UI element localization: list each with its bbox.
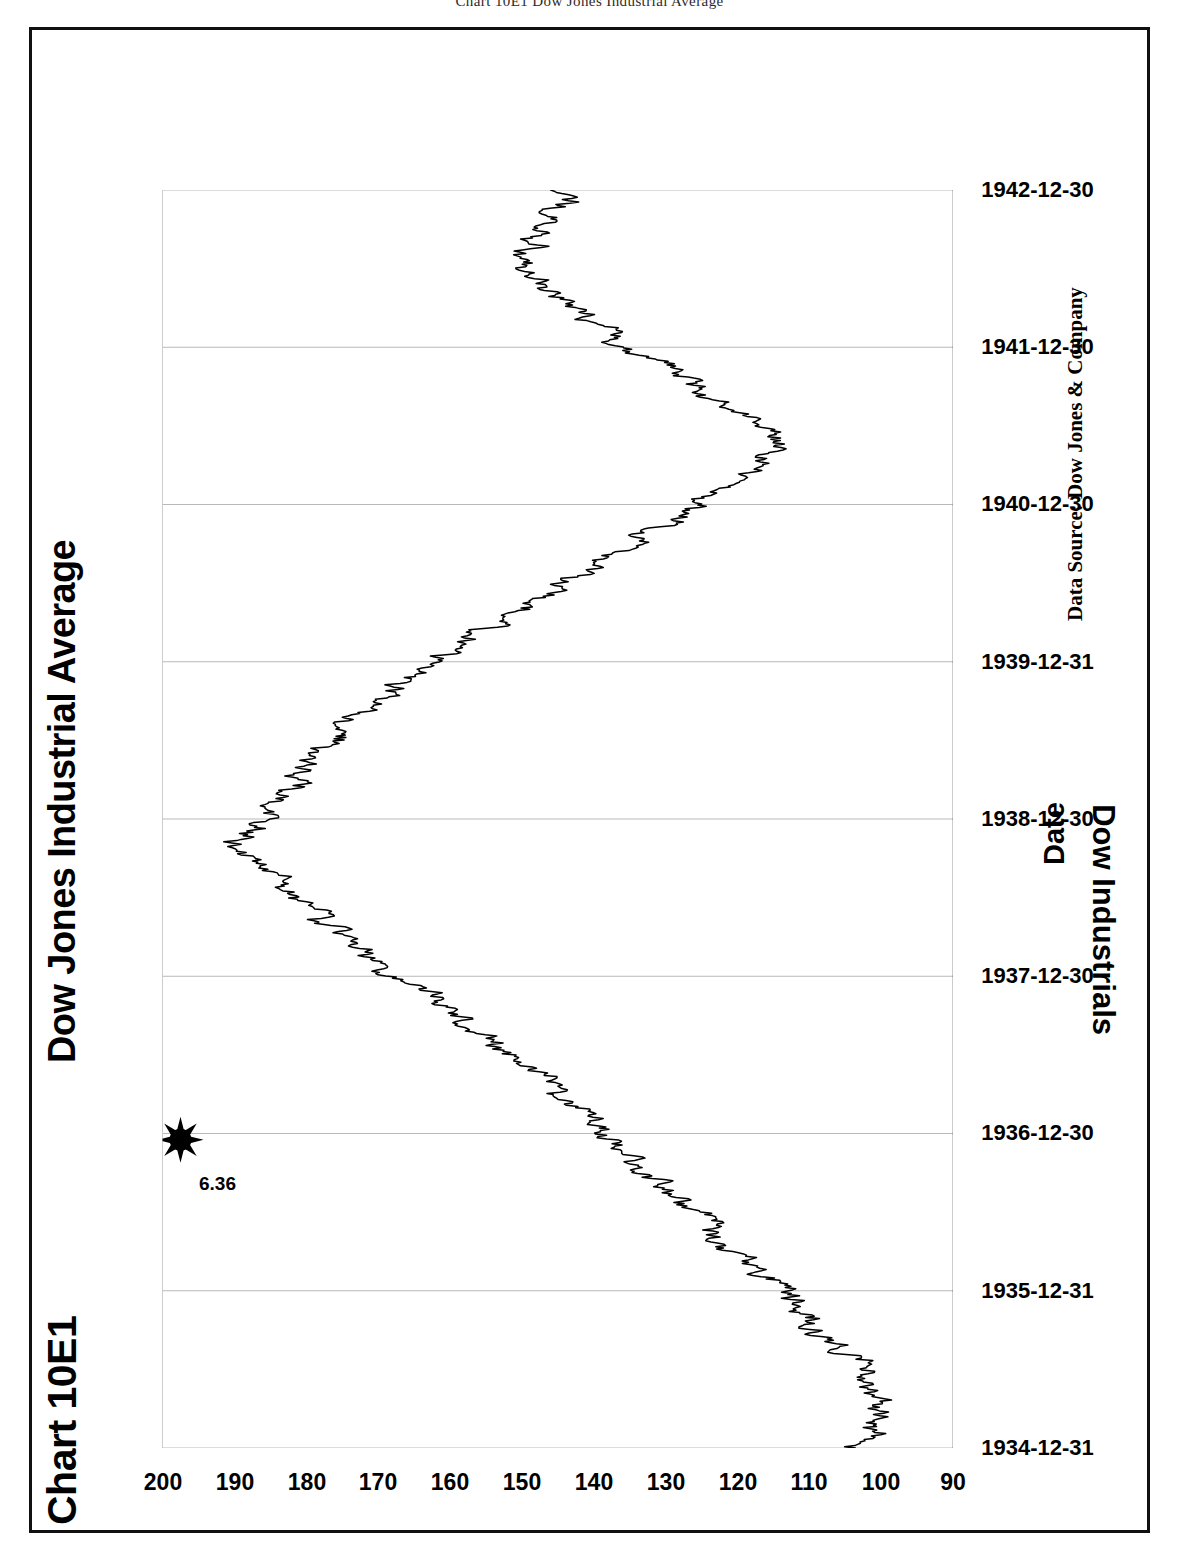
peak-star-marker [162, 1117, 203, 1163]
y-axis-title: Dow Industrials [1084, 804, 1120, 1035]
plot-area: 6.36 20019018017016015014013012011010090… [162, 190, 952, 1448]
x-tick-label: 1942-12-30 [981, 177, 1094, 203]
x-tick-label: 1936-12-30 [981, 1121, 1094, 1147]
x-tick-label: 1934-12-31 [981, 1435, 1094, 1461]
rotated-chart-stage: Chart 10E1 Dow Jones Industrial Average … [32, 27, 1147, 1533]
chart-number-label: Chart 10E1 [38, 1316, 85, 1525]
grid-lines [162, 190, 952, 1448]
chart-title: Dow Jones Industrial Average [40, 540, 83, 1063]
annotation-value-label: 6.36 [198, 1172, 235, 1194]
data-source-note: Data Source: Dow Jones & Company [1062, 287, 1087, 621]
x-tick-label: 1937-12-30 [981, 963, 1094, 989]
x-axis-title: Date [1037, 802, 1070, 865]
x-tick-label: 1939-12-31 [981, 649, 1094, 675]
figure-frame: Chart 10E1 Dow Jones Industrial Average … [29, 27, 1150, 1533]
x-tick-label: 1935-12-31 [981, 1278, 1094, 1304]
page-running-header: Chart 10E1 Dow Jones Industrial Average [0, 0, 1179, 10]
line-chart-svg [162, 190, 952, 1448]
